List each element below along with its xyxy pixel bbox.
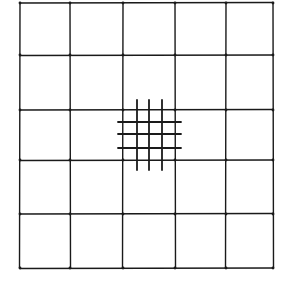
coarse-vertical-line [123, 3, 124, 268]
coarse-vertical-line [226, 3, 227, 268]
coarse-horizontal-line [20, 160, 273, 161]
junction-dot [69, 267, 72, 270]
junction-dot [272, 109, 275, 112]
junction-dot [122, 54, 125, 57]
junction-dot [272, 159, 275, 162]
junction-dot [69, 213, 72, 216]
junction-dot [19, 54, 22, 57]
junction-dot [174, 267, 177, 270]
junction-dot [69, 159, 72, 162]
junction-dot [122, 213, 125, 216]
junction-dot [174, 109, 177, 112]
coarse-horizontal-line [20, 214, 273, 215]
junction-dot [174, 159, 177, 162]
grid-diagram [0, 0, 288, 284]
junction-dot [19, 2, 22, 5]
junction-dot [174, 213, 177, 216]
junction-dot [225, 109, 228, 112]
junction-dot [19, 267, 22, 270]
junction-dot [69, 2, 72, 5]
junction-dot [19, 159, 22, 162]
fine-subgrid [118, 100, 181, 170]
junction-dot [69, 109, 72, 112]
coarse-horizontal-line [20, 55, 273, 56]
coarse-vertical-line [175, 3, 176, 268]
junction-dot [225, 2, 228, 5]
junction-dot [272, 54, 275, 57]
coarse-horizontal-line [20, 3, 273, 4]
junction-dot [122, 2, 125, 5]
junction-dot [122, 267, 125, 270]
coarse-vertical-line [273, 3, 274, 268]
junction-dot [272, 2, 275, 5]
junction-dot [69, 54, 72, 57]
junction-dot [272, 267, 275, 270]
junction-dot [225, 267, 228, 270]
junction-dot [19, 213, 22, 216]
coarse-horizontal-line [20, 268, 273, 269]
coarse-grid [19, 2, 275, 270]
junction-dot [225, 159, 228, 162]
junction-dot [225, 54, 228, 57]
junction-dot [174, 2, 177, 5]
junction-dot [272, 213, 275, 216]
junction-dot [122, 109, 125, 112]
grid-drawing [0, 0, 288, 284]
junction-dot [19, 109, 22, 112]
coarse-vertical-line [70, 3, 71, 268]
coarse-vertical-line [20, 3, 21, 268]
junction-dot [225, 213, 228, 216]
junction-dot [174, 54, 177, 57]
coarse-horizontal-line [20, 110, 273, 111]
junction-dot [122, 159, 125, 162]
